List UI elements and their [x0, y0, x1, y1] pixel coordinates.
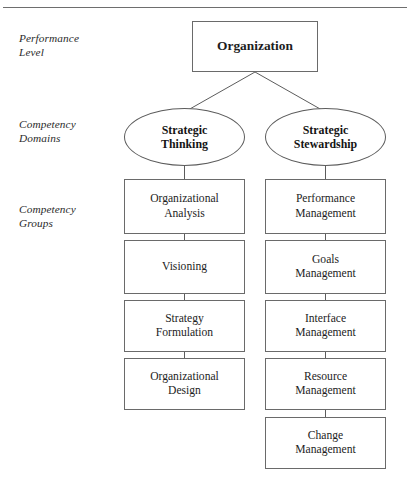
node-interface-management[interactable]: Interface Management	[265, 300, 386, 352]
node-organizational-design[interactable]: Organizational Design	[124, 358, 245, 410]
node-organizational-analysis-label: Organizational Analysis	[150, 192, 219, 221]
node-organization[interactable]: Organization	[192, 21, 318, 72]
edge-organization-to-strategic-stewardship	[255, 72, 326, 112]
node-organization-label: Organization	[217, 39, 293, 54]
node-visioning[interactable]: Visioning	[124, 240, 245, 294]
row-label-competency-domains: Competency Domains	[19, 118, 76, 145]
node-strategy-formulation-label: Strategy Formulation	[156, 312, 213, 341]
node-strategic-thinking-label: Strategic Thinking	[161, 123, 208, 152]
row-label-performance-level: Performance Level	[19, 32, 79, 59]
node-performance-management-label: Performance Management	[295, 192, 356, 221]
node-strategic-stewardship-label: Strategic Stewardship	[294, 123, 357, 152]
node-organizational-design-label: Organizational Design	[150, 370, 219, 399]
node-performance-management[interactable]: Performance Management	[265, 179, 386, 234]
node-visioning-label: Visioning	[162, 260, 207, 275]
node-interface-management-label: Interface Management	[295, 312, 356, 341]
node-strategic-stewardship[interactable]: Strategic Stewardship	[265, 108, 386, 166]
node-resource-management[interactable]: Resource Management	[265, 358, 386, 410]
node-resource-management-label: Resource Management	[295, 370, 356, 399]
node-change-management[interactable]: Change Management	[265, 417, 386, 469]
edge-organization-to-strategic-thinking	[185, 72, 256, 112]
node-goals-management-label: Goals Management	[295, 253, 356, 282]
node-goals-management[interactable]: Goals Management	[265, 240, 386, 294]
node-strategic-thinking[interactable]: Strategic Thinking	[124, 108, 245, 166]
row-label-competency-groups: Competency Groups	[19, 203, 76, 230]
top-divider-rule	[3, 7, 407, 8]
node-organizational-analysis[interactable]: Organizational Analysis	[124, 179, 245, 234]
node-strategy-formulation[interactable]: Strategy Formulation	[124, 300, 245, 352]
node-change-management-label: Change Management	[295, 429, 356, 458]
org-competency-diagram: Performance Level Competency Domains Com…	[0, 0, 410, 487]
